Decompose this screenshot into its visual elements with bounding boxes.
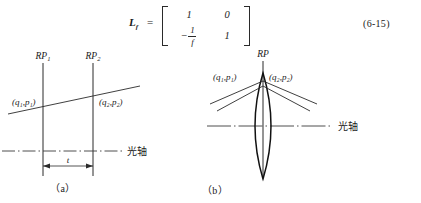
reference-plane-1-label: RP1 — [35, 51, 51, 62]
distance-label: t — [67, 155, 70, 165]
figure-b-drawing: RP (q₁,p₁) (q₂,p₂) 光轴 — [205, 48, 421, 183]
figure-b-caption: （b） — [107, 182, 323, 197]
matrix-left-bracket — [162, 6, 168, 46]
equation-lhs-symbol: L — [129, 16, 136, 28]
matrix-cells: 1 0 − 1 f 1 — [168, 6, 244, 46]
matrix-cell-r2c2: 1 — [224, 31, 229, 42]
reference-plane-2-label: RP2 — [85, 51, 102, 62]
optical-axis-label: 光轴 — [338, 120, 358, 132]
fraction-one-over-f: 1 f — [188, 26, 196, 47]
ray-output-label: (q₂,p₂) — [99, 97, 123, 107]
matrix-2x2: 1 0 − 1 f 1 — [162, 5, 250, 47]
figure-a-drawing: RP1 RP2 (q₁,p₁) (q₂,p₂) 光轴 t — [0, 48, 210, 183]
ray-input-label: (q₁,p₁) — [213, 72, 237, 82]
equation-lhs-subscript: f — [136, 23, 138, 31]
fraction-denominator: f — [191, 38, 194, 47]
negative-fraction: − 1 f — [182, 26, 197, 47]
matrix-cell-r1c1: 1 — [186, 10, 191, 21]
ray-input-label: (q₁,p₁) — [12, 97, 36, 107]
dimension-arrow-right — [86, 164, 93, 169]
minus-sign: − — [182, 31, 188, 42]
fraction-numerator: 1 — [190, 26, 195, 35]
figure-page: Lf = 1 0 − 1 f 1 — [0, 0, 421, 203]
equation-number: (6-15) — [363, 18, 390, 29]
equation-lhs: Lf — [129, 16, 138, 31]
equation-6-15: Lf = 1 0 − 1 f 1 — [0, 2, 421, 48]
matrix-right-bracket — [244, 6, 250, 46]
equals-sign: = — [147, 16, 153, 28]
matrix-cell-r2c1: − 1 f — [182, 26, 197, 47]
dimension-arrow-left — [43, 164, 50, 169]
ray-output-label: (q₂,p₂) — [269, 72, 293, 82]
reference-plane-label: RP — [256, 49, 269, 59]
figure-b: RP (q₁,p₁) (q₂,p₂) 光轴 （b） — [205, 48, 421, 203]
optical-axis-label: 光轴 — [127, 145, 147, 157]
figure-a: RP1 RP2 (q₁,p₁) (q₂,p₂) 光轴 t （a） — [0, 48, 210, 203]
matrix-cell-r1c2: 0 — [224, 10, 229, 21]
